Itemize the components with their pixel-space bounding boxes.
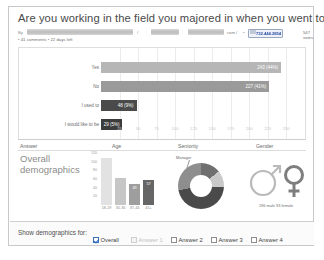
source-redacted-1 xyxy=(151,29,179,35)
age-bar[interactable] xyxy=(115,178,126,205)
checkbox-label: Answer 3 xyxy=(219,237,243,243)
checkbox-label: Answer 2 xyxy=(179,237,203,243)
male-icon-circle xyxy=(251,171,275,195)
checkbox-icon[interactable] xyxy=(251,237,257,243)
filter-checkbox-answer-4[interactable]: Answer 4 xyxy=(251,228,283,237)
bar[interactable]: 243 (44%) xyxy=(101,62,281,73)
age-y-tick: 80 xyxy=(93,168,97,172)
bullet-1: • xyxy=(18,37,20,42)
column-header-gender: Gender xyxy=(256,143,273,149)
age-bar[interactable] xyxy=(101,158,112,205)
source-redacted-2 xyxy=(188,29,224,35)
gender-symbols xyxy=(246,155,306,203)
seniority-chart: Manager xyxy=(164,155,240,217)
filter-checkbox-answer-3[interactable]: Answer 3 xyxy=(211,228,243,237)
age-chart-x-labels: 18-2930-3637-4445+ xyxy=(98,206,160,214)
age-x-tick: 18-29 xyxy=(102,206,112,210)
filter-checkbox-overall[interactable]: Overall xyxy=(93,228,119,237)
filter-checkbox-answer-1: Answer 1 xyxy=(131,228,163,237)
checkbox-icon[interactable] xyxy=(93,237,99,243)
checkbox-icon[interactable] xyxy=(171,237,177,243)
age-x-tick: 30-36 xyxy=(116,206,126,210)
row-label-overall: Overall demographics xyxy=(20,154,80,175)
age-bar-value: 57 xyxy=(143,182,154,186)
column-header-seniority: Seniority xyxy=(178,143,198,149)
row-label-line1: Overall xyxy=(20,154,80,165)
age-bar[interactable]: 57 xyxy=(143,180,154,205)
demographics-filter-bar: Show demographics for: OverallAnswer 1An… xyxy=(10,221,314,245)
bullet-2: • xyxy=(48,37,50,42)
age-x-tick: 45+ xyxy=(145,206,151,210)
age-y-tick: 100 xyxy=(91,160,97,164)
age-chart-plot: 4957 xyxy=(98,153,158,205)
row-label-line2: demographics xyxy=(20,165,80,176)
vote-count: 547 votes xyxy=(303,30,313,40)
column-header-answer: Answer xyxy=(20,143,37,149)
gender-chart: 196 male 93 female xyxy=(246,155,306,217)
gender-caption: 196 male 93 female xyxy=(246,203,306,208)
age-y-tick: 120 xyxy=(91,151,97,155)
age-y-tick: 60 xyxy=(93,177,97,181)
age-bar[interactable]: 49 xyxy=(129,184,140,205)
checkbox-label: Answer 4 xyxy=(259,237,283,243)
bar-value-label: 227 (41%) xyxy=(245,81,266,92)
x-axis-tick: 25 xyxy=(117,126,122,131)
x-axis-tick: 75 xyxy=(154,126,159,131)
page-title: Are you working in the field you majored… xyxy=(18,12,310,24)
days-left: 22 days left xyxy=(50,37,72,42)
x-axis-tick: 200 xyxy=(246,126,253,131)
bar-row[interactable]: No227 (41%) xyxy=(19,81,305,92)
donut-hole xyxy=(190,175,212,197)
x-axis-tick: 175 xyxy=(227,126,234,131)
column-header-age: Age xyxy=(112,143,121,149)
female-icon-circle xyxy=(286,167,303,184)
x-axis-tick: 50 xyxy=(136,126,141,131)
age-y-tick: 20 xyxy=(93,194,97,198)
phone-number: 732.444.2854 xyxy=(256,31,281,36)
age-bar-value: 49 xyxy=(129,186,140,190)
x-axis-tick: 250 xyxy=(283,126,290,131)
poll-card: Are you working in the field you majored… xyxy=(8,6,314,246)
bar-value-label: 243 (44%) xyxy=(257,62,278,73)
bar-category-label: Yes xyxy=(19,62,99,73)
meta-separator-1: / xyxy=(137,30,138,35)
age-chart-y-axis: 12010080604020 xyxy=(84,153,97,205)
male-icon-arrow-line xyxy=(272,166,281,175)
comment-count: 41 comments xyxy=(21,37,47,42)
age-y-tick: 40 xyxy=(93,186,97,190)
checkbox-icon xyxy=(131,237,137,243)
checkbox-label: Answer 1 xyxy=(139,237,163,243)
filter-label: Show demographics for: xyxy=(18,229,87,236)
x-axis-tick: 125 xyxy=(190,126,197,131)
bar-value-label: 48 (9%) xyxy=(118,100,134,111)
bar-category-label: I used to xyxy=(19,100,99,111)
demographics-row-overall: Overall demographics 12010080604020 4957… xyxy=(18,151,306,221)
x-axis-tick: 225 xyxy=(264,126,271,131)
phone-badge[interactable]: 732.444.2854 xyxy=(248,29,283,38)
site-suffix: com / xyxy=(227,30,237,35)
x-axis-tick: 150 xyxy=(209,126,216,131)
filter-checkbox-answer-2[interactable]: Answer 2 xyxy=(171,228,203,237)
age-chart: 12010080604020 4957 18-2930-3637-4445+ xyxy=(84,153,160,217)
demographics-header-row: Answer Age Seniority Gender xyxy=(18,139,306,151)
answers-bar-chart: Yes243 (44%)No227 (41%)I used to48 (9%)I… xyxy=(18,47,306,139)
checkbox-icon[interactable] xyxy=(211,237,217,243)
meta-separator-2: • xyxy=(243,30,244,35)
bar-category-label: No xyxy=(19,81,99,92)
bar-row[interactable]: Yes243 (44%) xyxy=(19,62,305,73)
chart-x-axis: 255075100125150175200225250 xyxy=(19,126,305,138)
checkbox-label: Overall xyxy=(101,237,119,243)
comments-and-days: • 41 comments • 22 days left xyxy=(18,37,72,42)
poll-meta: By / com / 732.444.2854 • 547 votes • 41… xyxy=(18,29,308,38)
x-axis-tick: 100 xyxy=(172,126,179,131)
age-x-tick: 37-44 xyxy=(130,206,140,210)
by-label: By xyxy=(18,30,23,35)
bar-row[interactable]: I used to48 (9%) xyxy=(19,100,305,111)
author-redacted xyxy=(27,29,133,35)
bar[interactable]: 227 (41%) xyxy=(101,81,269,92)
bar[interactable]: 48 (9%) xyxy=(101,100,137,111)
